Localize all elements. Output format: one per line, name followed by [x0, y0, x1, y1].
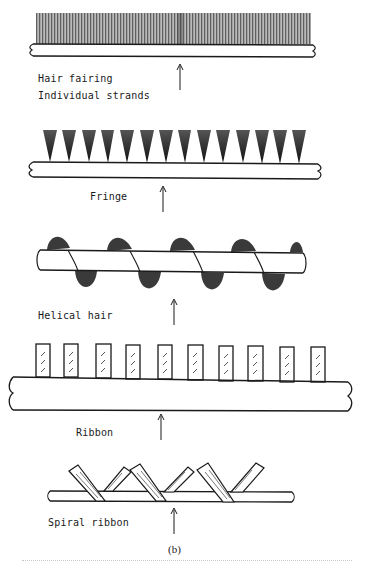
label-hair-fairing: Hair fairing	[38, 73, 113, 84]
label-helical-hair: Helical hair	[38, 310, 113, 321]
flow-arrow-icon	[160, 186, 166, 212]
fringe-tufts	[43, 130, 306, 164]
label-spiral-ribbon: Spiral ribbon	[48, 517, 129, 528]
flow-arrow-icon	[177, 64, 183, 90]
cable	[50, 491, 292, 502]
ribbons	[36, 344, 325, 382]
label-individual-strands: Individual strands	[38, 90, 150, 101]
panel-label: (b)	[168, 543, 181, 555]
cable-fairing-diagram	[0, 0, 369, 566]
cable	[33, 44, 313, 57]
cable	[33, 162, 318, 179]
flow-arrow-icon	[171, 299, 177, 325]
ribbon-figure	[9, 344, 352, 440]
label-fringe: Fringe	[90, 191, 127, 202]
label-ribbon: Ribbon	[76, 427, 113, 438]
cable	[13, 377, 348, 411]
hair-strands	[36, 13, 311, 44]
spiral-ribbon-strips	[69, 463, 264, 502]
flow-arrow-icon	[158, 414, 164, 440]
flow-arrow-icon	[171, 508, 177, 534]
fringe-figure	[29, 130, 321, 212]
cut-off-caption	[22, 560, 352, 565]
